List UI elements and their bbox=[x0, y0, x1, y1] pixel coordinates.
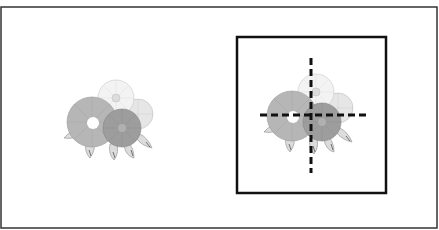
figure-canvas bbox=[0, 0, 439, 230]
left-flower-cluster bbox=[64, 80, 153, 160]
right-framed-panel bbox=[237, 37, 386, 193]
